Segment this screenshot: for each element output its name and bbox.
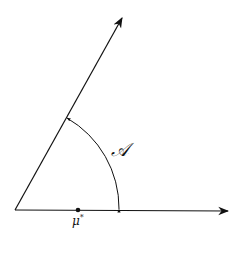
angle-arc [67, 118, 119, 209]
slanted-ray [15, 18, 122, 210]
mu-superscript: * [80, 213, 84, 222]
mu-symbol: μ [72, 214, 80, 228]
mu-star-label: μ* [72, 213, 84, 228]
horizontal-ray [15, 210, 228, 211]
angle-diagram [0, 0, 243, 263]
mu-star-point [76, 208, 81, 213]
angle-label: 𝒜 [111, 138, 129, 161]
